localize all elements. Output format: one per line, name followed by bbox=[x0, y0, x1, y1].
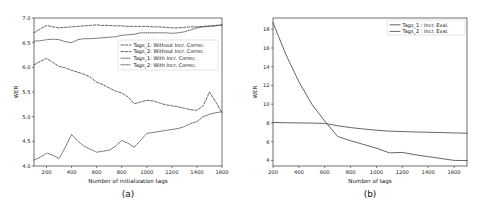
x-tick-label: 200 bbox=[268, 169, 278, 175]
data-series-line bbox=[273, 23, 467, 161]
x-tick-label: 400 bbox=[294, 169, 304, 175]
panel-caption: (a) bbox=[122, 189, 135, 199]
y-tick-label: 6.5 bbox=[22, 40, 30, 46]
y-tick-label: 14 bbox=[263, 64, 270, 70]
x-tick-label: 200 bbox=[42, 169, 52, 175]
y-tick-label: 6.0 bbox=[22, 64, 30, 70]
y-tick-label: 8 bbox=[266, 120, 269, 126]
x-tick-label: 1000 bbox=[370, 169, 383, 175]
y-tick-label: 6 bbox=[266, 139, 269, 145]
chart-a-canvas: 20040060080010001200140016004.04.55.05.5… bbox=[0, 0, 241, 211]
y-axis-title: WER bbox=[13, 85, 19, 98]
chart-b-canvas: 2004006008001000120014001600468101214161… bbox=[241, 0, 482, 211]
y-tick-label: 12 bbox=[263, 82, 270, 88]
x-tick-label: 1600 bbox=[215, 169, 228, 175]
y-tick-label: 18 bbox=[263, 26, 270, 32]
y-tick-label: 7.0 bbox=[22, 15, 30, 21]
x-axis-title: Number of tags bbox=[348, 178, 392, 185]
x-tick-label: 800 bbox=[346, 169, 356, 175]
chart-panel-a: 20040060080010001200140016004.04.55.05.5… bbox=[0, 0, 241, 211]
legend-label: Tags_2 : Incr. Eval. bbox=[402, 28, 449, 35]
y-tick-label: 4.5 bbox=[22, 138, 30, 144]
x-tick-label: 1200 bbox=[396, 169, 409, 175]
y-tick-label: 4.0 bbox=[22, 163, 30, 169]
x-tick-label: 1600 bbox=[447, 169, 460, 175]
legend-label: Tags_2: With Incr. Correc. bbox=[133, 62, 197, 69]
x-tick-label: 1400 bbox=[422, 169, 435, 175]
x-tick-label: 600 bbox=[92, 169, 102, 175]
plot-area-border bbox=[273, 18, 467, 166]
y-axis-title: WER bbox=[252, 85, 258, 98]
x-tick-label: 800 bbox=[117, 169, 127, 175]
y-tick-label: 5.0 bbox=[22, 114, 30, 120]
figure-container: 20040060080010001200140016004.04.55.05.5… bbox=[0, 0, 482, 211]
x-tick-label: 1400 bbox=[190, 169, 203, 175]
x-tick-label: 600 bbox=[320, 169, 330, 175]
y-tick-label: 16 bbox=[263, 45, 270, 51]
x-tick-label: 1200 bbox=[165, 169, 178, 175]
data-series-line bbox=[34, 112, 222, 160]
panel-caption: (b) bbox=[364, 189, 377, 199]
data-series-line bbox=[273, 122, 467, 133]
chart-panel-b: 2004006008001000120014001600468101214161… bbox=[241, 0, 482, 211]
y-tick-label: 4 bbox=[266, 157, 270, 163]
y-tick-label: 5.5 bbox=[22, 89, 30, 95]
x-axis-title: Number of initialization tags bbox=[88, 178, 167, 185]
x-tick-label: 400 bbox=[67, 169, 77, 175]
y-tick-label: 10 bbox=[263, 101, 270, 107]
x-tick-label: 1000 bbox=[140, 169, 153, 175]
